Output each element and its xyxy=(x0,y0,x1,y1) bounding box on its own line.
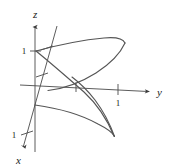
curve-lower-inner xyxy=(72,77,115,137)
y-tick-label-1: 1 xyxy=(116,98,121,108)
x-tick-label-1: 1 xyxy=(12,130,17,140)
tick-marks-group xyxy=(21,46,118,135)
figure-container: z y x 1 1 1 xyxy=(0,0,169,167)
axis-labels-group: z y x xyxy=(15,8,162,166)
tick-labels-group: 1 1 1 xyxy=(12,46,121,140)
curve-upper-inner xyxy=(48,43,125,91)
axes-group xyxy=(20,26,148,152)
x-axis-line xyxy=(24,26,58,146)
y-axis-label: y xyxy=(156,86,162,98)
coordinate-plot: z y x 1 1 1 xyxy=(0,0,169,167)
space-curve-group xyxy=(35,38,125,137)
curve-upper-outer xyxy=(36,38,125,51)
x-axis-label: x xyxy=(15,154,21,166)
z-tick-label-1: 1 xyxy=(22,46,27,56)
x-tick-minor-a xyxy=(36,73,48,77)
curve-lower-outer xyxy=(35,105,115,137)
z-axis-label: z xyxy=(32,8,38,20)
curve-diagonal-upper xyxy=(36,51,114,136)
